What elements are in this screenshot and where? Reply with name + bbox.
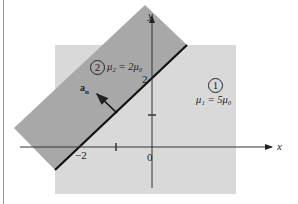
normal-vector-label: an (80, 83, 89, 96)
y-axis-label: y (148, 10, 153, 21)
origin-label: 0 (147, 152, 153, 163)
diagram-canvas (0, 0, 298, 204)
region-1-permeability: μ₁ = 5μ₀ (196, 95, 231, 106)
region-2-circle-label: 2 (90, 60, 105, 75)
y-tick-label: 2 (142, 74, 148, 85)
region-1-circle-label: 1 (208, 78, 223, 93)
x-axis-label: x (277, 141, 282, 152)
normal-vector-subscript: n (85, 88, 89, 96)
region-2-permeability: μ₂ = 2μ₀ (107, 62, 142, 73)
x-tick-label: −2 (75, 150, 87, 161)
